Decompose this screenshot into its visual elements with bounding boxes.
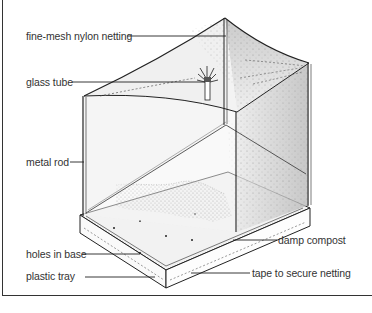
label-glass-tube: glass tube <box>26 76 73 88</box>
label-damp-compost: damp compost <box>278 234 346 246</box>
label-tape: tape to secure netting <box>252 267 351 279</box>
netting-shape <box>84 18 309 232</box>
label-metal-rod: metal rod <box>26 156 69 168</box>
label-netting: fine-mesh nylon netting <box>26 30 132 42</box>
label-holes-in-base: holes in base <box>26 248 87 260</box>
label-plastic-tray: plastic tray <box>26 270 75 282</box>
